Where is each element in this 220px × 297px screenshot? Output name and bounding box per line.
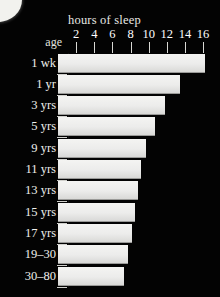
bar — [58, 139, 146, 158]
x-tick-mark — [94, 42, 95, 53]
bar-category-label: 11 yrs — [0, 162, 56, 177]
bar — [58, 160, 141, 179]
bar — [58, 267, 124, 286]
x-tick-mark — [185, 42, 186, 53]
x-tick-mark — [112, 42, 113, 53]
bar — [58, 181, 138, 200]
x-tick-mark — [167, 42, 168, 53]
bar — [58, 54, 205, 73]
x-tick-mark — [76, 42, 77, 53]
bar — [58, 96, 165, 115]
chart-title: hours of sleep — [68, 13, 208, 28]
bar-category-label: 5 yrs — [0, 119, 56, 134]
bar-category-label: 19–30 — [0, 247, 56, 262]
bar — [58, 203, 135, 222]
x-tick-mark — [149, 42, 150, 53]
bar — [58, 245, 128, 264]
category-tick-rule — [57, 287, 67, 288]
bar-category-label: 17 yrs — [0, 226, 56, 241]
y-axis-label-age: age — [14, 35, 62, 50]
bar — [58, 224, 132, 243]
bar-category-label: 1 yr — [0, 77, 56, 92]
bar-category-label: 30–80 — [0, 269, 56, 284]
x-tick-mark — [203, 42, 204, 53]
x-tick-label: 16 — [192, 27, 214, 42]
bar-category-label: 3 yrs — [0, 98, 56, 113]
bar-category-label: 15 yrs — [0, 205, 56, 220]
bar — [58, 117, 155, 136]
bar — [58, 75, 180, 94]
figure-page: hours of sleep age 246810121416 1 wk1 yr… — [0, 0, 220, 297]
bar-category-label: 13 yrs — [0, 183, 56, 198]
bar-category-label: 1 wk — [0, 56, 56, 71]
sleep-hours-bar-chart: hours of sleep age 246810121416 1 wk1 yr… — [0, 0, 220, 297]
x-tick-mark — [131, 42, 132, 53]
bar-category-label: 9 yrs — [0, 141, 56, 156]
